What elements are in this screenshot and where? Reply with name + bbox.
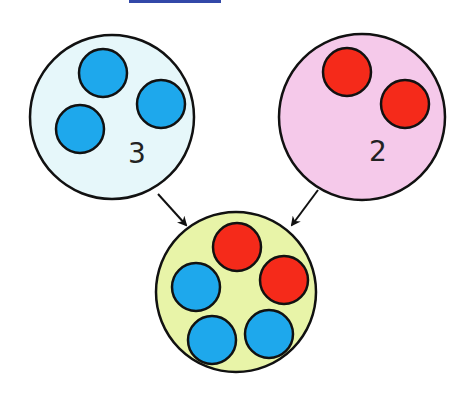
- arrow-left-to-result: [158, 194, 186, 225]
- left-set: 3: [30, 35, 194, 199]
- blue-dot: [137, 80, 185, 128]
- blue-dot: [56, 105, 104, 153]
- red-dot: [260, 256, 308, 304]
- result-set: [156, 212, 316, 372]
- left-count-label: 3: [128, 137, 146, 170]
- right-set: 2: [279, 34, 445, 200]
- blue-dot: [79, 49, 127, 97]
- arrow-right-to-result: [292, 190, 318, 225]
- red-dot: [213, 223, 261, 271]
- blue-dot: [188, 316, 236, 364]
- red-dot: [323, 48, 371, 96]
- right-count-label: 2: [369, 135, 387, 168]
- blue-dot: [245, 310, 293, 358]
- addition-diagram: 3 2: [0, 0, 469, 415]
- blue-dot: [172, 263, 220, 311]
- red-dot: [381, 80, 429, 128]
